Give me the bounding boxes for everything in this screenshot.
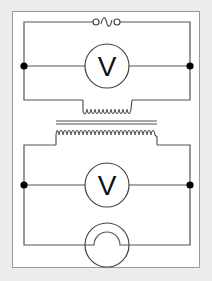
junction-dot <box>20 62 27 69</box>
lamp-icon <box>85 223 129 267</box>
primary-right-wire <box>120 22 190 100</box>
voltmeter-icon: V <box>85 44 129 88</box>
secondary-right-wire <box>129 145 190 245</box>
voltmeter-icon: V <box>85 163 129 207</box>
primary-left-wire <box>24 22 93 100</box>
primary-circuit: V <box>20 18 193 114</box>
iron-core <box>56 121 157 124</box>
transformer-circuit-diagram: V V <box>0 0 212 281</box>
voltmeter-label: V <box>98 170 117 201</box>
secondary-circuit: V <box>20 131 193 268</box>
voltmeter-label: V <box>98 51 117 82</box>
primary-coil-icon <box>83 100 132 114</box>
junction-dot <box>186 62 193 69</box>
ac-source-icon <box>93 18 120 27</box>
secondary-left-wire <box>24 145 85 245</box>
secondary-coil-icon <box>56 131 157 146</box>
junction-dot <box>186 181 193 188</box>
junction-dot <box>20 181 27 188</box>
